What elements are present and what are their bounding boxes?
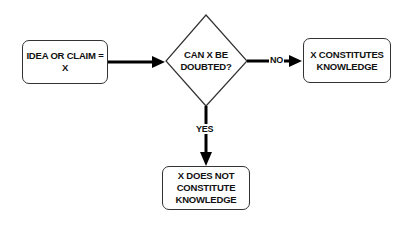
decision-node-label: CAN X BE DOUBTED?: [166, 49, 246, 73]
arrowhead-icon: [289, 55, 302, 67]
arrowhead-icon: [152, 56, 165, 68]
edge-label-no: NO: [269, 55, 284, 65]
start-node: IDEA OR CLAIM = X: [22, 40, 108, 84]
no-result-node: X CONSTITUTES KNOWLEDGE: [303, 38, 391, 83]
arrowhead-icon: [200, 152, 212, 166]
start-node-label: IDEA OR CLAIM = X: [23, 50, 107, 74]
yes-result-node: X DOES NOT CONSTITUTE KNOWLEDGE: [162, 166, 250, 210]
edge-label-yes: YES: [195, 124, 214, 134]
